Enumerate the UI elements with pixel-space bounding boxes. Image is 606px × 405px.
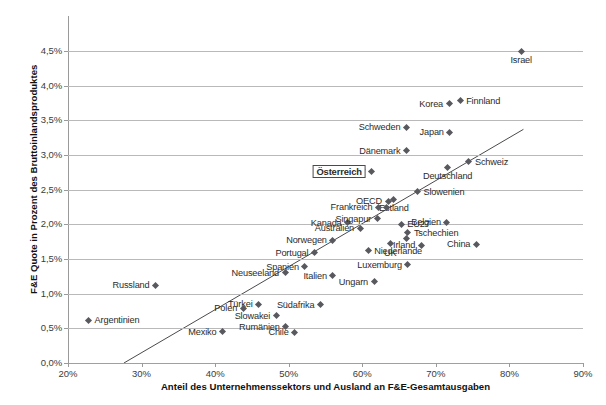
y-axis-title: F&E Quote in Prozent des Bruttoinlandspr…	[29, 19, 40, 339]
x-tick-mark	[68, 363, 69, 367]
data-point-marker[interactable]	[357, 225, 364, 232]
data-point-marker[interactable]	[329, 237, 336, 244]
x-tick-mark	[215, 363, 216, 367]
data-point-marker[interactable]	[152, 282, 159, 289]
y-tick-label: 0,0%	[22, 358, 62, 368]
x-tick-mark	[436, 363, 437, 367]
data-point-label: Slowenien	[423, 188, 464, 197]
data-point-label: Frankreich	[331, 203, 373, 212]
x-axis-title: Anteil des Unternehmenssektors und Ausla…	[68, 382, 583, 393]
data-point-label: Österreich	[312, 165, 365, 178]
data-point-label: China	[447, 240, 470, 249]
y-tick-mark	[64, 294, 68, 295]
data-point-marker[interactable]	[329, 272, 336, 279]
data-point-marker[interactable]	[404, 261, 411, 268]
x-tick-label: 70%	[411, 369, 461, 379]
data-point-label: Slowakei	[235, 312, 271, 321]
data-point-marker[interactable]	[368, 168, 375, 175]
data-point-label: Chile	[268, 328, 288, 337]
data-point-label: Italien	[303, 272, 326, 281]
x-tick-mark	[142, 363, 143, 367]
data-point-label: Schweiz	[475, 158, 508, 167]
data-point-label: Dänemark	[359, 147, 400, 156]
y-tick-mark	[64, 120, 68, 121]
data-point-marker[interactable]	[444, 164, 451, 171]
data-point-marker[interactable]	[255, 301, 262, 308]
data-point-label: Australien	[315, 224, 354, 233]
data-point-label: Japan	[420, 128, 444, 137]
data-point-label: Belgien	[411, 218, 441, 227]
x-tick-mark	[362, 363, 363, 367]
data-point-marker[interactable]	[85, 316, 92, 323]
data-point-marker[interactable]	[446, 129, 453, 136]
x-tick-label: 80%	[484, 369, 534, 379]
data-point-marker[interactable]	[311, 249, 318, 256]
data-point-label: Luxemburg	[357, 261, 402, 270]
y-tick-mark	[64, 51, 68, 52]
x-tick-label: 90%	[558, 369, 606, 379]
data-point-marker[interactable]	[371, 278, 378, 285]
x-tick-mark	[509, 363, 510, 367]
data-point-label: Argentinien	[95, 316, 140, 325]
gridline	[68, 155, 583, 156]
data-point-marker[interactable]	[281, 269, 288, 276]
data-point-marker[interactable]	[465, 158, 472, 165]
gridline	[68, 86, 583, 87]
data-point-label: UK	[384, 249, 396, 258]
data-point-marker[interactable]	[390, 196, 397, 203]
x-tick-label: 50%	[264, 369, 314, 379]
gridline	[68, 120, 583, 121]
data-point-label: Neuseeland	[231, 269, 279, 278]
gridline	[68, 51, 583, 52]
data-point-marker[interactable]	[398, 221, 405, 228]
data-point-marker[interactable]	[403, 124, 410, 131]
data-point-marker[interactable]	[403, 147, 410, 154]
y-tick-mark	[64, 190, 68, 191]
gridline	[68, 259, 583, 260]
data-point-label: Portugal	[275, 249, 308, 258]
data-point-marker[interactable]	[473, 241, 480, 248]
x-tick-mark	[583, 363, 584, 367]
data-point-label: Israel	[510, 56, 532, 65]
x-tick-label: 60%	[337, 369, 387, 379]
data-point-label: Schweden	[359, 123, 401, 132]
data-point-label: Tschechien	[414, 229, 458, 238]
data-point-marker[interactable]	[317, 301, 324, 308]
x-tick-label: 40%	[190, 369, 240, 379]
data-point-marker[interactable]	[365, 247, 372, 254]
data-point-label: Niederlande	[374, 247, 422, 256]
x-tick-label: 20%	[43, 369, 93, 379]
data-point-marker[interactable]	[373, 215, 380, 222]
plot-area: IsraelFinnlandKoreaJapanSchwedenDänemark…	[68, 16, 583, 363]
data-point-marker[interactable]	[518, 47, 525, 54]
data-point-label: Deutschland	[423, 172, 472, 181]
y-tick-mark	[64, 224, 68, 225]
data-point-label: Russland	[112, 281, 149, 290]
data-point-marker[interactable]	[291, 329, 298, 336]
data-point-marker[interactable]	[301, 263, 308, 270]
y-tick-mark	[64, 259, 68, 260]
gridline	[68, 328, 583, 329]
data-point-label: Südafrika	[277, 301, 314, 310]
gridline	[68, 363, 583, 364]
y-tick-mark	[64, 328, 68, 329]
data-point-label: Ungarn	[339, 278, 368, 287]
data-point-label: Korea	[419, 100, 443, 109]
data-point-marker[interactable]	[446, 100, 453, 107]
y-tick-mark	[64, 155, 68, 156]
x-tick-mark	[289, 363, 290, 367]
data-point-label: Norwegen	[286, 236, 327, 245]
x-tick-label: 30%	[117, 369, 167, 379]
gridline	[68, 294, 583, 295]
y-tick-mark	[64, 86, 68, 87]
scatter-chart: IsraelFinnlandKoreaJapanSchwedenDänemark…	[0, 0, 606, 405]
data-point-label: Mexiko	[188, 328, 216, 337]
clipped-top-title	[0, 0, 606, 2]
data-point-marker[interactable]	[273, 312, 280, 319]
data-point-label: Finnland	[466, 97, 500, 106]
data-point-marker[interactable]	[457, 97, 464, 104]
gridline	[68, 190, 583, 191]
